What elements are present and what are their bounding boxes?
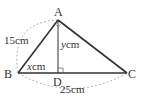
vertex-label-b: B: [4, 67, 12, 81]
triangle-diagram: A B C D 15cm 25cm ycm xcm: [0, 0, 146, 105]
vertex-label-c: C: [128, 67, 136, 81]
unit-cm-ad: cm: [66, 38, 80, 50]
length-label-ad: ycm: [60, 38, 80, 50]
length-label-bc: 25cm: [60, 83, 85, 95]
length-label-bd: xcm: [26, 60, 46, 72]
vertex-label-a: A: [54, 5, 63, 19]
unit-cm-bd: cm: [32, 60, 46, 72]
length-label-ab: 15cm: [4, 34, 29, 46]
